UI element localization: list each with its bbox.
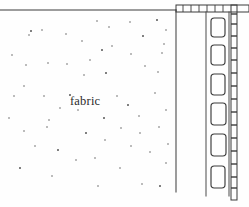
stipple-dot — [111, 45, 112, 46]
slot-opening-1 — [211, 18, 225, 37]
stipple-dot — [119, 167, 120, 168]
stipple-dot — [65, 33, 66, 34]
stipple-dot — [159, 185, 161, 187]
stipple-dot — [57, 149, 59, 151]
stipple-dot — [23, 85, 24, 86]
stipple-dot — [165, 109, 166, 110]
stipple-dot — [34, 145, 35, 146]
stipple-dot — [46, 126, 47, 127]
stipple-dot — [83, 74, 84, 75]
stipple-dot — [130, 145, 131, 146]
stipple-dot — [127, 104, 129, 106]
stipple-dot — [108, 26, 109, 27]
stipple-dot — [144, 65, 145, 66]
slot-openings-group — [211, 18, 226, 188]
stipple-dot — [47, 62, 48, 63]
stipple-dot — [23, 130, 24, 131]
stipple-dot — [51, 175, 52, 176]
slot-opening-3 — [211, 74, 225, 95]
stipple-dot — [77, 109, 78, 110]
stipple-dot — [116, 95, 117, 96]
stipple-dot — [28, 34, 29, 35]
stipple-dot — [41, 29, 42, 30]
frame-structure — [176, 5, 249, 200]
stipple-dot — [138, 115, 139, 116]
stipple-dot — [13, 95, 14, 96]
stipple-dot — [30, 30, 32, 32]
line-drawing-canvas — [0, 0, 249, 207]
slot-opening-4 — [211, 103, 226, 125]
top-band-tick-marks — [183, 5, 223, 12]
stipple-dot — [165, 162, 166, 163]
stipple-dot — [43, 95, 44, 96]
stipple-dot — [25, 64, 26, 65]
stipple-dot — [139, 132, 140, 133]
stipple-dot — [75, 159, 76, 160]
stipple-dot — [154, 92, 155, 93]
stipple-dot — [19, 167, 21, 169]
technical-drawing-figure: fabric — [0, 0, 249, 207]
stipple-dot — [141, 183, 142, 184]
frame-outer-top-band — [176, 5, 249, 12]
frame-right-rail — [231, 5, 237, 200]
stipple-dot — [157, 71, 158, 72]
stipple-dot — [163, 43, 164, 44]
stipple-dot — [103, 117, 105, 119]
stipple-dot — [142, 35, 144, 37]
stipple-dot — [165, 29, 166, 30]
stipple-dot — [59, 107, 60, 108]
stipple-dot — [94, 157, 95, 158]
stipple-dot — [161, 52, 162, 53]
stipple-dot — [89, 59, 90, 60]
stipple-dot — [66, 63, 67, 64]
stipple-dot — [81, 40, 82, 41]
stipple-dot — [97, 185, 98, 186]
stipple-dot — [130, 53, 131, 54]
fabric-label: fabric — [70, 94, 100, 109]
right-rail-tick-marks — [231, 14, 237, 188]
stipple-dot — [158, 126, 159, 127]
stipple-dot — [105, 72, 107, 74]
stipple-dot — [156, 19, 158, 21]
stipple-dot — [129, 21, 130, 22]
stipple-dot — [85, 132, 87, 134]
slot-opening-6 — [211, 166, 225, 188]
stipple-dot — [8, 117, 9, 118]
stipple-dot — [120, 127, 121, 128]
slot-opening-2 — [211, 45, 225, 65]
stipple-dot — [149, 151, 150, 152]
stipple-dot — [104, 139, 105, 140]
stipple-dot — [96, 20, 97, 21]
stipple-dot — [48, 119, 49, 120]
stipple-dot — [101, 49, 103, 51]
slot-opening-5 — [211, 134, 226, 156]
stipple-dot — [11, 54, 12, 55]
stipple-dot — [167, 143, 168, 144]
slot-column — [206, 12, 229, 196]
